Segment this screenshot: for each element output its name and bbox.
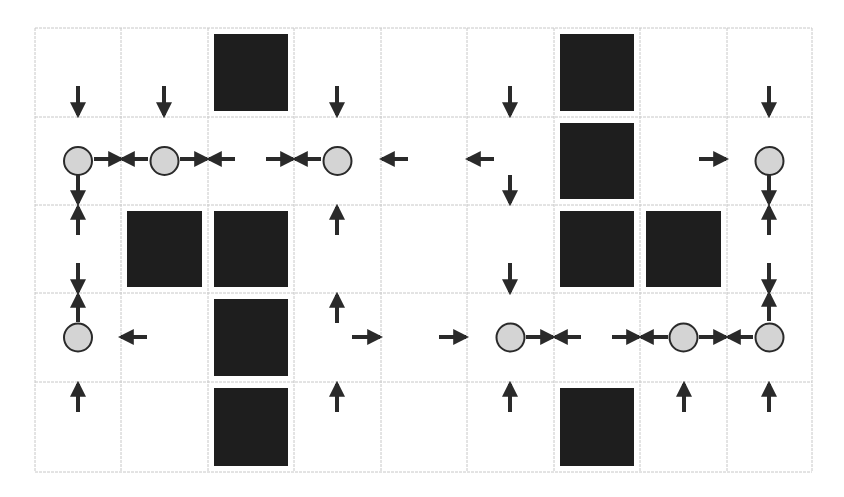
grid-canvas [0,0,844,497]
obstacle-block [127,211,202,287]
obstacle-block [646,211,721,287]
obstacle-block [214,388,288,466]
agent-circle [497,324,525,352]
grid-world-diagram [0,0,844,497]
obstacle-block [560,123,634,199]
agent-circle [670,324,698,352]
agent-circle [756,147,784,175]
agent-circle [756,324,784,352]
obstacle-block [560,211,634,287]
obstacle-block [560,388,634,466]
agent-circle [324,147,352,175]
agent-circle [64,147,92,175]
obstacle-block [214,211,288,287]
obstacle-layer [127,34,721,466]
obstacle-block [214,299,288,376]
obstacle-block [214,34,288,111]
obstacle-block [560,34,634,111]
agent-circle [151,147,179,175]
agent-circle [64,324,92,352]
